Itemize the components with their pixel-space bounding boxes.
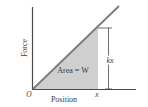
- area-label: Area = W: [57, 66, 89, 75]
- x-marker-label: x: [94, 90, 99, 99]
- y-axis-label: Force: [20, 38, 29, 57]
- force-position-diagram: Force Position O x kx Area = W: [0, 0, 148, 107]
- height-label: kx: [106, 56, 114, 65]
- origin-label: O: [26, 90, 32, 99]
- x-axis-label: Position: [51, 95, 77, 104]
